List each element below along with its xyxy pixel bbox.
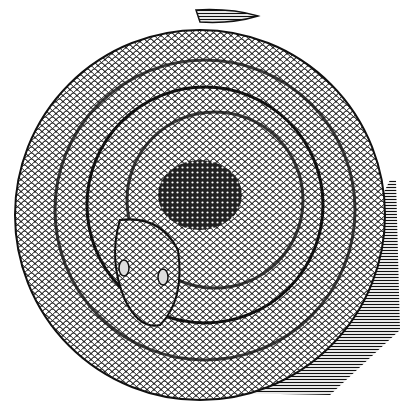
coil-center [158, 160, 242, 230]
rattlesnake-illustration [0, 0, 411, 405]
eye-left-icon [119, 260, 129, 276]
eye-right-icon [158, 269, 168, 285]
rattle [196, 10, 258, 23]
